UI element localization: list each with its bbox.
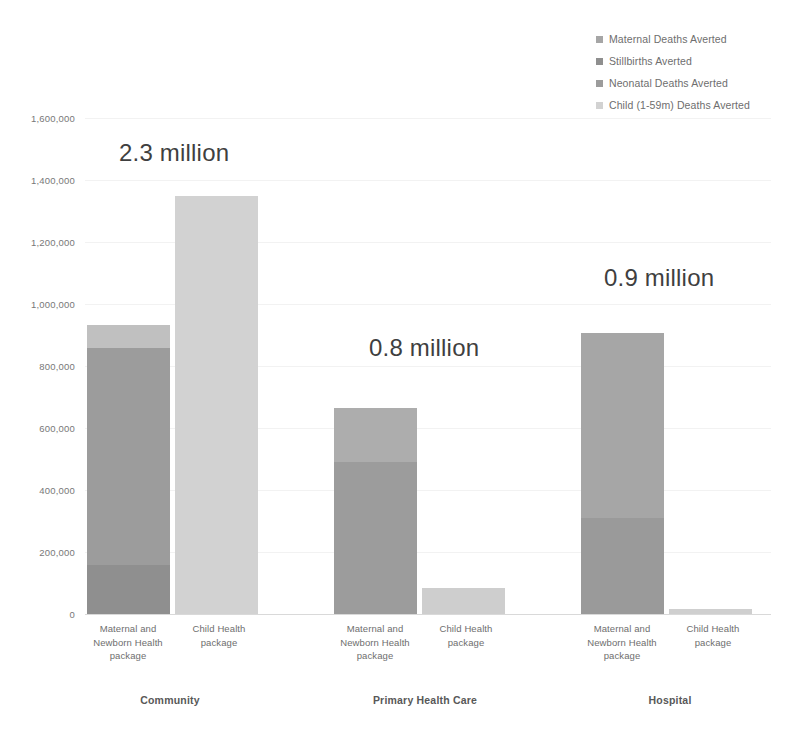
bar-segment-child: [175, 196, 258, 614]
legend-label: Neonatal Deaths Averted: [609, 77, 728, 89]
cat-line: Newborn Health: [587, 637, 657, 648]
y-tick-label: 1,200,000: [31, 237, 75, 248]
legend-item-stillbirths-averted: Stillbirths Averted: [596, 50, 782, 72]
bar-segment-neonatal: [87, 348, 170, 565]
category-label-hospital-ch: Child Health package: [670, 622, 756, 649]
group-label-community: Community: [100, 694, 240, 706]
bar-segment-neonatal: [334, 462, 417, 614]
cat-line: Maternal and: [594, 623, 651, 634]
legend-item-maternal-deaths-averted: Maternal Deaths Averted: [596, 28, 782, 50]
chart-legend: Maternal Deaths Averted Stillbirths Aver…: [596, 28, 782, 116]
y-tick-label: 1,400,000: [31, 175, 75, 186]
bar-segment-maternal: [581, 333, 664, 518]
y-tick-label: 1,600,000: [31, 113, 75, 124]
group-label-primary-health-care: Primary Health Care: [345, 694, 505, 706]
bar-hospital-child-health[interactable]: [669, 609, 752, 614]
legend-label: Maternal Deaths Averted: [609, 33, 727, 45]
bar-community-child-health[interactable]: [175, 196, 258, 614]
legend-swatch-icon: [596, 36, 603, 43]
y-axis: 1,600,000 1,400,000 1,200,000 1,000,000 …: [0, 0, 85, 736]
y-tick-label: 800,000: [39, 361, 75, 372]
cat-line: package: [695, 637, 732, 648]
cat-line: Child Health: [687, 623, 740, 634]
bar-phc-child-health[interactable]: [422, 588, 505, 614]
y-tick-label: 600,000: [39, 423, 75, 434]
legend-swatch-icon: [596, 80, 603, 87]
y-tick-label: 200,000: [39, 547, 75, 558]
callout-phc-total: 0.8 million: [369, 334, 479, 362]
legend-swatch-icon: [596, 102, 603, 109]
legend-label: Child (1-59m) Deaths Averted: [609, 99, 750, 111]
bar-community-mnh[interactable]: [87, 325, 170, 614]
legend-label: Stillbirths Averted: [609, 55, 692, 67]
bar-hospital-mnh[interactable]: [581, 333, 664, 614]
cat-line: Child Health: [193, 623, 246, 634]
category-label-phc-ch: Child Health package: [423, 622, 509, 649]
legend-item-child-deaths-averted: Child (1-59m) Deaths Averted: [596, 94, 782, 116]
bar-segment-child: [422, 588, 505, 614]
gridline: [85, 180, 771, 181]
y-tick-label: 1,000,000: [31, 299, 75, 310]
cat-line: Newborn Health: [340, 637, 410, 648]
bar-segment-child: [669, 609, 752, 614]
y-tick-label: 400,000: [39, 485, 75, 496]
group-label-hospital: Hospital: [600, 694, 740, 706]
bar-segment-maternal: [87, 325, 170, 348]
bar-segment-stillbirths: [581, 518, 664, 614]
cat-line: package: [110, 650, 147, 661]
bar-segment-stillbirths: [87, 565, 170, 614]
legend-item-neonatal-deaths-averted: Neonatal Deaths Averted: [596, 72, 782, 94]
cat-line: Maternal and: [347, 623, 404, 634]
cat-line: package: [604, 650, 641, 661]
plot-area: [85, 118, 771, 614]
cat-line: Maternal and: [100, 623, 157, 634]
cat-line: Child Health: [440, 623, 493, 634]
category-label-community-mnh: Maternal and Newborn Health package: [82, 622, 174, 663]
y-tick-label: 0: [70, 609, 75, 620]
bar-phc-mnh[interactable]: [334, 408, 417, 614]
gridline: [85, 118, 771, 119]
x-axis-line: [85, 614, 771, 615]
cat-line: package: [357, 650, 394, 661]
callout-community-total: 2.3 million: [119, 139, 229, 167]
legend-swatch-icon: [596, 58, 603, 65]
cat-line: Newborn Health: [93, 637, 163, 648]
bar-segment-maternal: [334, 408, 417, 462]
category-label-phc-mnh: Maternal and Newborn Health package: [329, 622, 421, 663]
category-label-hospital-mnh: Maternal and Newborn Health package: [576, 622, 668, 663]
cat-line: package: [448, 637, 485, 648]
callout-hospital-total: 0.9 million: [604, 264, 714, 292]
cat-line: package: [201, 637, 238, 648]
category-label-community-ch: Child Health package: [176, 622, 262, 649]
